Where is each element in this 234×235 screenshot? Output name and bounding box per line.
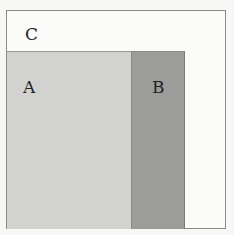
region-c: C A B [6, 10, 226, 229]
region-a: A [7, 51, 132, 229]
region-b: B [132, 51, 185, 229]
label-a: A [23, 79, 35, 96]
label-b: B [152, 79, 165, 96]
diagram-canvas: C A B [0, 0, 234, 235]
label-c: C [25, 26, 38, 43]
